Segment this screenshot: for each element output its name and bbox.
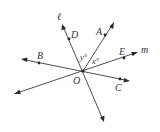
point-e [123,57,126,60]
point-d [68,38,71,41]
label-d: D [70,29,79,40]
label-a: A [95,26,103,37]
label-e: E [118,46,125,57]
point-b [38,62,41,65]
arrowhead-m-left [14,90,21,94]
arrowhead-bc-right [123,78,130,83]
label-o: O [73,75,80,86]
angle-label-x: x° [91,56,100,66]
arrowhead-bc-left [21,58,28,63]
label-b: B [37,50,43,61]
label-c: C [115,82,122,93]
label-l: ℓ [57,11,61,22]
angle-label-y: y° [79,52,88,62]
point-o [81,69,84,72]
point-a [104,34,107,37]
arrowhead-m-right [131,52,138,56]
label-m: m [141,44,148,55]
geometry-diagram: ℓ m A B C D E O y° x° [0,0,160,132]
arrowhead-l-top [62,24,67,31]
arrowhead-l-bottom [100,116,105,123]
point-c [119,78,122,81]
